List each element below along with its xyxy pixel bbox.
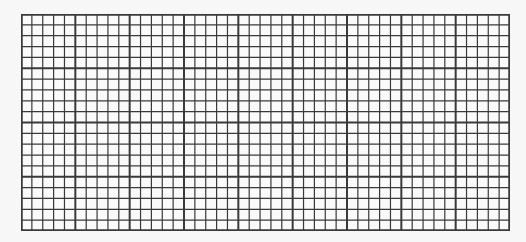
grid-lines (21, 14, 510, 231)
graph-paper-grid (21, 14, 510, 231)
